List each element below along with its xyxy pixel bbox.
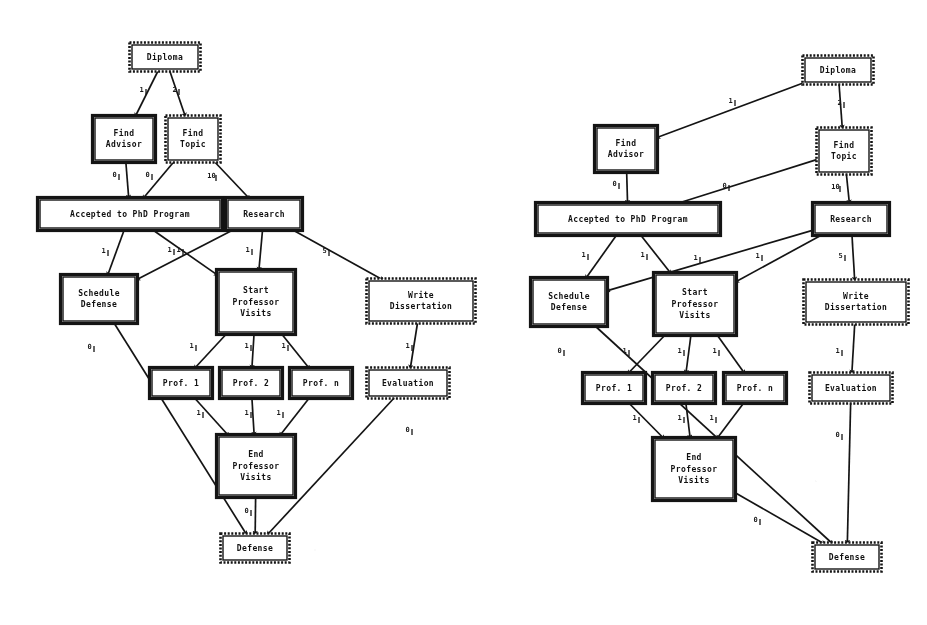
- node-find_topic[interactable]: FindTopic: [817, 128, 872, 175]
- figure-canvas: 120010111150111111100DiplomaFindAdvisorF…: [0, 0, 927, 625]
- edge-weight-label: 1: [640, 251, 644, 259]
- edge-accepted-to-start_visits: [150, 228, 219, 276]
- node-label: Evaluation: [825, 383, 877, 393]
- node-label: Visits: [678, 475, 709, 485]
- edge-weight-label: 0: [145, 171, 149, 179]
- node-label: Research: [830, 215, 872, 224]
- edge-write_dissertation-to-evaluation: [410, 321, 418, 370]
- node-schedule_defense[interactable]: ScheduleDefense: [61, 275, 138, 324]
- node-end_visits[interactable]: EndProfessorVisits: [217, 435, 296, 498]
- node-start_visits[interactable]: StartProfessorVisits: [654, 273, 737, 336]
- edge-start_visits-to-profn: [716, 333, 746, 375]
- edge-research-to-start_visits: [259, 228, 263, 272]
- node-accepted[interactable]: Accepted to PhD Program: [38, 198, 223, 231]
- node-find_advisor[interactable]: FindAdvisor: [595, 126, 658, 173]
- node-label: Defense: [81, 300, 118, 309]
- edge-schedule_defense-to-defense: [593, 324, 834, 545]
- node-label: Find: [114, 128, 135, 138]
- node-box: [95, 118, 153, 160]
- edge-weight-label: 1: [245, 246, 249, 254]
- node-label: Professor: [233, 462, 280, 471]
- node-research[interactable]: Research: [813, 203, 890, 236]
- node-diploma[interactable]: Diploma: [803, 56, 874, 85]
- node-label: Dissertation: [825, 302, 888, 312]
- edge-weight-label: 1: [405, 342, 409, 350]
- node-box: [597, 128, 655, 170]
- edge-weight-label: 1: [581, 251, 585, 259]
- edge-find_topic-to-research: [846, 172, 849, 205]
- node-label: Prof. 1: [163, 379, 200, 388]
- edge-accepted-to-schedule_defense: [107, 228, 125, 277]
- edge-weight-label: 0: [112, 171, 116, 179]
- node-find_topic[interactable]: FindTopic: [166, 116, 221, 163]
- node-label: Diploma: [820, 65, 857, 75]
- node-label: Prof. 1: [596, 384, 633, 393]
- edge-schedule_defense-to-defense: [113, 321, 248, 536]
- node-schedule_defense[interactable]: ScheduleDefense: [531, 278, 608, 327]
- edge-weight-label: 1: [101, 247, 105, 255]
- node-end_visits[interactable]: EndProfessorVisits: [653, 438, 736, 501]
- node-defense[interactable]: Defense: [813, 543, 882, 572]
- node-profn[interactable]: Prof. n: [724, 373, 787, 404]
- node-label: Visits: [240, 308, 271, 318]
- node-profn[interactable]: Prof. n: [290, 368, 353, 399]
- edge-weight-label: 5: [322, 247, 326, 255]
- node-label: Prof. 2: [666, 384, 703, 393]
- node-label: Find: [616, 138, 637, 148]
- node-label: Prof. 2: [233, 379, 270, 388]
- node-find_advisor[interactable]: FindAdvisor: [93, 116, 156, 163]
- edge-start_visits-to-profn: [280, 332, 310, 370]
- node-label: Defense: [829, 553, 866, 562]
- node-label: Diploma: [147, 52, 184, 62]
- edge-weight-label: 1: [632, 414, 636, 422]
- edge-find_advisor-to-accepted: [627, 170, 628, 205]
- edge-weight-label: 1: [189, 342, 193, 350]
- node-label: Advisor: [608, 149, 645, 159]
- edge-weight-label: 0: [405, 426, 409, 434]
- edge-weight-label: 1: [176, 246, 180, 254]
- edge-weight-label: 1: [622, 347, 626, 355]
- edge-weight-label: 1: [139, 86, 143, 94]
- node-label: Schedule: [548, 292, 590, 301]
- node-box: [168, 118, 218, 160]
- edge-weight-label: 1: [281, 342, 285, 350]
- edge-start_visits-to-prof1: [627, 333, 668, 375]
- edge-weight-label: 0: [722, 182, 726, 190]
- right-task-graph: 120010111150111111100DiplomaFindAdvisorF…: [531, 56, 909, 572]
- node-research[interactable]: Research: [226, 198, 303, 231]
- node-evaluation[interactable]: Evaluation: [810, 373, 893, 404]
- node-write_dissertation[interactable]: WriteDissertation: [367, 279, 476, 324]
- node-label: Find: [183, 128, 204, 138]
- edge-evaluation-to-defense: [847, 401, 850, 545]
- edge-diploma-to-find_advisor: [655, 82, 806, 138]
- edge-weight-label: 0: [835, 431, 839, 439]
- edge-find_advisor-to-accepted: [126, 160, 129, 200]
- edge-weight-label: 1: [693, 254, 697, 262]
- node-label: Topic: [180, 139, 206, 149]
- node-label: Accepted to PhD Program: [70, 210, 190, 219]
- node-prof2[interactable]: Prof. 2: [220, 368, 283, 399]
- node-label: Dissertation: [390, 301, 453, 311]
- edge-research-to-write_dissertation: [289, 228, 385, 281]
- node-label: End: [248, 450, 264, 459]
- node-prof1[interactable]: Prof. 1: [150, 368, 213, 399]
- node-box: [63, 277, 135, 321]
- node-prof2[interactable]: Prof. 2: [653, 373, 716, 404]
- node-box: [369, 281, 473, 321]
- node-defense[interactable]: Defense: [221, 534, 290, 563]
- node-label: Visits: [240, 472, 271, 482]
- edge-weight-label: 1: [835, 347, 839, 355]
- edge-prof2-to-end_visits: [252, 396, 254, 437]
- node-accepted[interactable]: Accepted to PhD Program: [536, 203, 721, 236]
- node-write_dissertation[interactable]: WriteDissertation: [804, 280, 909, 325]
- node-evaluation[interactable]: Evaluation: [367, 368, 450, 399]
- edge-diploma-to-find_advisor: [135, 69, 160, 118]
- edge-find_topic-to-research: [213, 160, 251, 200]
- node-prof1[interactable]: Prof. 1: [583, 373, 646, 404]
- node-label: Prof. n: [303, 379, 340, 388]
- node-label: Accepted to PhD Program: [568, 215, 688, 224]
- node-start_visits[interactable]: StartProfessorVisits: [217, 270, 296, 335]
- node-label: Research: [243, 210, 285, 219]
- node-box: [806, 282, 906, 322]
- node-diploma[interactable]: Diploma: [130, 43, 201, 72]
